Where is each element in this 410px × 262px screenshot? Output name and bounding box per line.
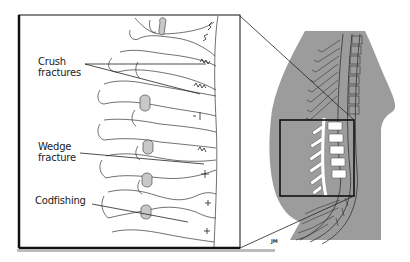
label-wedge-fracture: Wedge fracture xyxy=(38,141,76,163)
label-line: fracture xyxy=(38,152,76,163)
label-codfishing: Codfishing xyxy=(35,195,86,206)
diagram-canvas xyxy=(0,0,410,262)
spine-fracture-diagram: Crush fractures Wedge fracture Codfishin… xyxy=(0,0,410,262)
label-line: fractures xyxy=(38,67,81,78)
label-line: Crush xyxy=(38,56,81,67)
label-crush-fractures: Crush fractures xyxy=(38,56,81,78)
label-line: Codfishing xyxy=(35,195,86,206)
label-line: Wedge xyxy=(38,141,76,152)
artist-signature: JM xyxy=(271,238,278,244)
